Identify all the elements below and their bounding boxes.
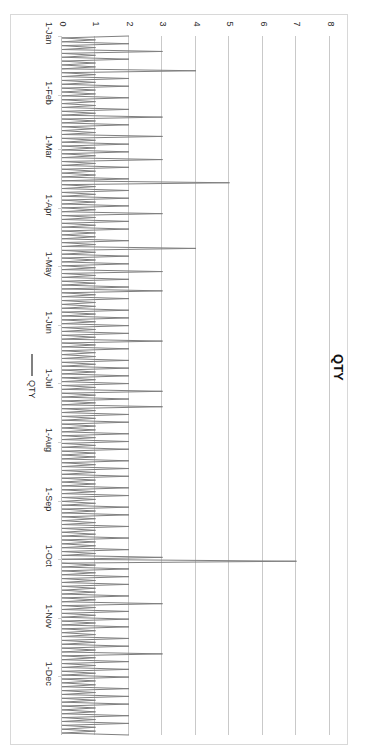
category-tick-label: 1-Jul (44, 369, 54, 389)
category-tick-label: 1-Apr (44, 194, 54, 216)
value-tick-label: 4 (192, 14, 202, 34)
chart-title: QTY (331, 354, 346, 381)
plot-area: 012345678 1-Jan1-Feb1-Mar1-Apr1-May1-Jun… (10, 14, 348, 745)
chart-legend: QTY (27, 354, 38, 399)
value-tick-label: 3 (159, 14, 169, 34)
category-tick-label: 1-Nov (44, 604, 54, 628)
value-tick-label: 5 (226, 14, 236, 34)
value-tick-label: 8 (326, 14, 336, 34)
value-tick-label: 7 (293, 14, 303, 34)
legend-line-marker (31, 354, 33, 376)
category-tick-label: 1-Mar (44, 135, 54, 159)
value-tick-label: 0 (58, 14, 68, 34)
category-tick-label: 1-Jun (44, 311, 54, 334)
value-tick-label: 1 (92, 14, 102, 34)
qty-series-path (62, 36, 297, 735)
series-line (10, 14, 348, 745)
category-tick-label: 1-Dec (44, 662, 54, 686)
chart-canvas: 012345678 1-Jan1-Feb1-Mar1-Apr1-May1-Jun… (10, 14, 348, 745)
category-tick-label: 1-Oct (44, 545, 54, 567)
category-tick-label: 1-May (44, 252, 54, 277)
value-tick-label: 6 (259, 14, 269, 34)
value-tick-label: 2 (125, 14, 135, 34)
category-tick-label: 1-Jan (44, 22, 54, 45)
category-tick-label: 1-Feb (44, 81, 54, 105)
chart-page: 012345678 1-Jan1-Feb1-Mar1-Apr1-May1-Jun… (0, 0, 368, 755)
legend-label: QTY (27, 380, 37, 399)
category-tick-label: 1-Aug (44, 428, 54, 452)
category-tick-label: 1-Sep (44, 487, 54, 511)
